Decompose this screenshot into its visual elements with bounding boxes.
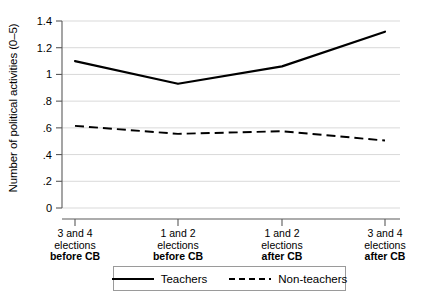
y-tick-label-1: 1 bbox=[46, 68, 52, 80]
chart-figure: Number of political activities (0–5) 1.4 bbox=[0, 0, 421, 295]
x-category-3-line1: 1 and 2 bbox=[234, 228, 330, 240]
y-tick-label-0.2: .2 bbox=[43, 175, 52, 187]
y-tick-label-1.2: 1.2 bbox=[37, 42, 52, 54]
gridlines bbox=[62, 21, 400, 208]
y-tick-label-0: 0 bbox=[46, 202, 52, 214]
legend-item-non-teachers[interactable]: Non-teachers bbox=[229, 273, 347, 285]
x-category-label-1: 3 and 4 elections before CB bbox=[27, 228, 123, 263]
x-category-label-3: 1 and 2 elections after CB bbox=[234, 228, 330, 263]
y-axis: 1.4 1.2 1 .8 .6 .4 .2 0 bbox=[37, 15, 62, 214]
series-line-teachers bbox=[75, 32, 385, 84]
y-tick-label-0.8: .8 bbox=[43, 95, 52, 107]
y-tick-label-0.4: .4 bbox=[43, 149, 52, 161]
legend-item-teachers[interactable]: Teachers bbox=[112, 273, 208, 285]
x-category-4-line3: after CB bbox=[337, 251, 421, 263]
x-category-1-line1: 3 and 4 bbox=[27, 228, 123, 240]
x-category-label-4: 3 and 4 elections after CB bbox=[337, 228, 421, 263]
x-category-label-2: 1 and 2 elections before CB bbox=[130, 228, 226, 263]
x-axis bbox=[62, 219, 400, 226]
chart-legend: Teachers Non-teachers bbox=[113, 266, 346, 291]
x-category-2-line3: before CB bbox=[130, 251, 226, 263]
x-category-2-line1: 1 and 2 bbox=[130, 228, 226, 240]
x-category-3-line3: after CB bbox=[234, 251, 330, 263]
x-category-4-line1: 3 and 4 bbox=[337, 228, 421, 240]
y-tick-label-0.6: .6 bbox=[43, 122, 52, 134]
legend-label-non-teachers: Non-teachers bbox=[278, 273, 347, 285]
legend-swatch-solid bbox=[112, 274, 154, 284]
legend-label-teachers: Teachers bbox=[161, 273, 208, 285]
x-category-1-line3: before CB bbox=[27, 251, 123, 263]
y-tick-label-1.4: 1.4 bbox=[37, 15, 52, 27]
legend-swatch-dashed bbox=[229, 274, 271, 284]
